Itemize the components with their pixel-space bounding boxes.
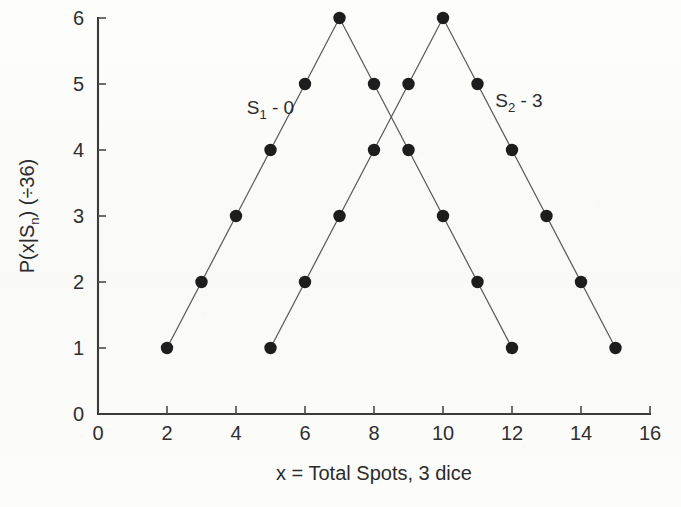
x-tick-label: 14 (570, 422, 592, 444)
data-point (368, 78, 380, 90)
probability-distribution-plot: 02468101214160123456S1 - 0S2 - 3x = Tota… (0, 0, 681, 507)
y-tick-label: 5 (73, 73, 84, 95)
axis-spine (98, 18, 650, 414)
y-axis-title: P(x|Sn) (÷36) (16, 159, 42, 274)
series-label-subscript: 2 (508, 100, 515, 115)
data-point (471, 276, 483, 288)
data-point (161, 342, 173, 354)
data-point (368, 144, 380, 156)
data-point (437, 210, 449, 222)
x-tick-label: 0 (92, 422, 103, 444)
data-point (195, 276, 207, 288)
data-point (333, 12, 345, 24)
data-point (402, 78, 414, 90)
series-label-symbol: S (495, 90, 508, 111)
y-tick-label: 4 (73, 139, 84, 161)
x-tick-label: 4 (230, 422, 241, 444)
x-tick-label: 6 (299, 422, 310, 444)
data-point (333, 210, 345, 222)
data-point (264, 144, 276, 156)
y-axis-title-part: P(x|S (16, 225, 38, 274)
data-point (609, 342, 621, 354)
y-tick-label: 2 (73, 271, 84, 293)
series-line-1 (167, 18, 512, 348)
y-tick-label: 6 (73, 7, 84, 29)
series-label-suffix: - 0 (267, 97, 294, 118)
data-point (299, 78, 311, 90)
x-tick-label: 10 (432, 422, 454, 444)
y-tick-label: 3 (73, 205, 84, 227)
data-point (437, 12, 449, 24)
data-point (230, 210, 242, 222)
y-tick-label: 0 (73, 403, 84, 425)
x-tick-label: 12 (501, 422, 523, 444)
y-axis-title-part: ) (÷36) (16, 159, 38, 218)
data-point (299, 276, 311, 288)
data-point (264, 342, 276, 354)
data-point (402, 144, 414, 156)
data-point (540, 210, 552, 222)
x-tick-label: 2 (161, 422, 172, 444)
data-point (506, 144, 518, 156)
series-label-suffix: - 3 (515, 90, 542, 111)
y-axis-title-subscript: n (27, 217, 42, 224)
chart-figure: 02468101214160123456S1 - 0S2 - 3x = Tota… (0, 0, 681, 507)
data-point (575, 276, 587, 288)
x-axis-title: x = Total Spots, 3 dice (276, 462, 472, 484)
series-label-2: S2 - 3 (495, 90, 542, 115)
series-label-symbol: S (247, 97, 260, 118)
y-tick-label: 1 (73, 337, 84, 359)
series-line-2 (271, 18, 616, 348)
data-point (471, 78, 483, 90)
x-tick-label: 8 (368, 422, 379, 444)
data-point (506, 342, 518, 354)
x-tick-label: 16 (639, 422, 661, 444)
series-label-subscript: 1 (260, 107, 267, 122)
